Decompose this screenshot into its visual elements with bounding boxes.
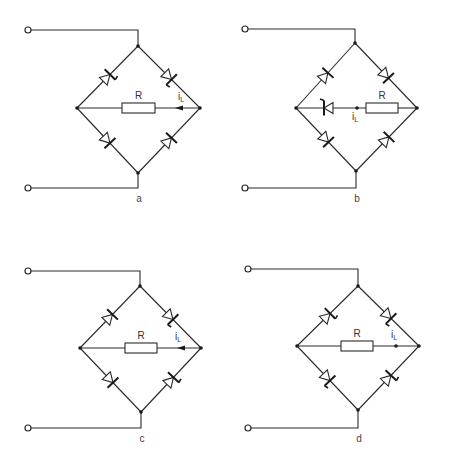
- gate-tick-icon: [325, 386, 328, 388]
- panel-label: a: [136, 193, 142, 204]
- input-wire-bottom: [31, 173, 138, 188]
- gate-tick-icon: [179, 379, 181, 383]
- current-arrow-icon: [177, 346, 185, 351]
- gate-tick-icon: [115, 76, 117, 80]
- resistor-icon: [341, 341, 373, 351]
- node-top: [356, 284, 360, 288]
- terminal-top-icon: [242, 26, 248, 32]
- panel-label: c: [140, 433, 145, 444]
- panel-b: RiLb: [242, 26, 419, 204]
- current-arrow-icon: [175, 106, 183, 111]
- resistor-label: R: [135, 90, 142, 101]
- node-left: [78, 346, 82, 350]
- terminal-bottom-icon: [242, 185, 248, 191]
- junction-dot: [355, 106, 359, 110]
- current-label: iL: [352, 111, 358, 123]
- current-label: iL: [178, 91, 184, 103]
- resistor-label: R: [378, 90, 385, 101]
- terminal-top-icon: [245, 266, 251, 272]
- panel-label: d: [356, 433, 362, 444]
- input-wire-top: [31, 271, 140, 286]
- node-top: [353, 41, 357, 45]
- panel-c: RiLc: [25, 268, 203, 444]
- node-right: [417, 344, 421, 348]
- current-label: iL: [175, 331, 181, 343]
- resistor-label: R: [137, 330, 144, 341]
- panel-a: RiLa: [25, 27, 202, 204]
- node-top: [136, 44, 140, 48]
- gate-tick-icon: [168, 325, 172, 327]
- node-left: [295, 344, 299, 348]
- node-left: [294, 106, 298, 110]
- gate-tick-icon: [396, 377, 398, 381]
- node-right: [415, 106, 419, 110]
- input-wire-top: [248, 29, 355, 43]
- node-left: [75, 106, 79, 110]
- terminal-top-icon: [25, 27, 31, 33]
- input-wire-bottom: [248, 171, 356, 188]
- node-bottom: [354, 169, 358, 173]
- input-wire-top: [31, 30, 138, 46]
- terminal-bottom-icon: [25, 425, 31, 431]
- node-top: [138, 284, 142, 288]
- terminal-bottom-icon: [25, 185, 31, 191]
- current-label: iL: [391, 329, 397, 341]
- diode-middle-icon: [320, 99, 333, 116]
- panel-d: RiLd: [245, 266, 421, 444]
- gate-tick-icon: [166, 85, 170, 87]
- node-bottom: [356, 408, 360, 412]
- panel-label: b: [354, 193, 360, 204]
- node-bottom: [139, 410, 143, 414]
- node-right: [198, 106, 202, 110]
- input-wire-top: [251, 269, 358, 286]
- gate-tick-icon: [335, 315, 337, 319]
- input-wire-bottom: [31, 412, 141, 428]
- input-wire-bottom: [251, 410, 358, 428]
- resistor-icon: [366, 103, 398, 113]
- node-right: [199, 346, 203, 350]
- resistor-icon: [125, 343, 157, 353]
- node-bottom: [136, 171, 140, 175]
- resistor-icon: [122, 103, 155, 113]
- gate-tick-icon: [386, 324, 390, 326]
- terminal-top-icon: [25, 268, 31, 274]
- resistor-label: R: [353, 328, 360, 339]
- current-marker-dot: [394, 344, 398, 348]
- circuit-diagram: RiLaRiLbRiLcRiLd: [0, 0, 449, 463]
- terminal-bottom-icon: [245, 425, 251, 431]
